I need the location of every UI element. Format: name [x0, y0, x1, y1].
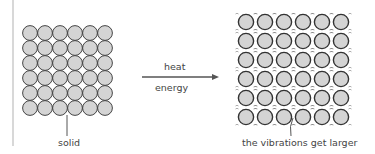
particle	[257, 52, 272, 67]
vibration-mark	[236, 48, 239, 49]
particle	[333, 14, 348, 29]
particle	[53, 86, 68, 101]
particle	[333, 109, 348, 124]
particle	[83, 41, 98, 56]
particle	[98, 101, 113, 116]
particle	[83, 71, 98, 86]
vibration-mark	[349, 70, 352, 71]
particle	[238, 71, 253, 86]
particle	[38, 56, 53, 71]
particle	[295, 33, 310, 48]
particle	[98, 71, 113, 86]
particle	[83, 101, 98, 116]
particle	[68, 41, 83, 56]
particle	[295, 109, 310, 124]
particle	[333, 71, 348, 86]
vibration-mark	[349, 29, 352, 30]
particle	[38, 26, 53, 41]
particle	[314, 52, 329, 67]
vibration-mark	[236, 51, 239, 52]
solid-particle-grid	[23, 26, 113, 116]
particle	[314, 33, 329, 48]
energy-label: energy	[155, 82, 188, 93]
heat-arrow	[142, 74, 219, 80]
vibration-mark	[236, 89, 239, 90]
solid-label: solid	[58, 137, 80, 148]
particle	[314, 90, 329, 105]
particle	[238, 33, 253, 48]
particle	[68, 26, 83, 41]
vibration-mark	[236, 32, 239, 33]
particle	[68, 56, 83, 71]
particle	[333, 52, 348, 67]
particle	[333, 90, 348, 105]
particle	[276, 14, 291, 29]
particle	[53, 41, 68, 56]
vibration-mark	[236, 124, 239, 125]
vibration-mark	[236, 70, 239, 71]
particle	[68, 86, 83, 101]
particle	[98, 56, 113, 71]
particle	[333, 33, 348, 48]
particle	[238, 109, 253, 124]
particle	[38, 101, 53, 116]
particle	[257, 109, 272, 124]
particle	[23, 41, 38, 56]
particle	[276, 33, 291, 48]
particle	[276, 71, 291, 86]
vibrating-particle-grid	[236, 13, 352, 125]
particle	[23, 26, 38, 41]
particle	[314, 71, 329, 86]
diagram-canvas	[0, 0, 375, 154]
particle	[68, 101, 83, 116]
particle	[276, 90, 291, 105]
particle	[257, 33, 272, 48]
particle	[276, 52, 291, 67]
vibration-mark	[349, 48, 352, 49]
particle	[23, 101, 38, 116]
particle	[23, 71, 38, 86]
vibration-mark	[236, 13, 239, 14]
particle	[98, 86, 113, 101]
particle	[257, 14, 272, 29]
vibration-mark	[349, 67, 352, 68]
particle	[295, 90, 310, 105]
particle	[314, 109, 329, 124]
particle	[38, 41, 53, 56]
particle	[23, 86, 38, 101]
vibration-mark	[349, 32, 352, 33]
particle	[53, 71, 68, 86]
particle	[53, 56, 68, 71]
particle	[238, 52, 253, 67]
particle	[314, 14, 329, 29]
particle	[295, 71, 310, 86]
vibration-mark	[349, 51, 352, 52]
particle	[98, 41, 113, 56]
particle	[295, 14, 310, 29]
particle	[23, 56, 38, 71]
vibrations-label: the vibrations get larger	[242, 137, 357, 148]
vibration-mark	[349, 108, 352, 109]
vibration-mark	[349, 89, 352, 90]
particle	[38, 71, 53, 86]
vibration-mark	[349, 86, 352, 87]
particle	[83, 86, 98, 101]
vibration-mark	[236, 108, 239, 109]
particle	[98, 26, 113, 41]
particle	[38, 86, 53, 101]
vibration-mark	[236, 86, 239, 87]
vibration-mark	[236, 29, 239, 30]
particle	[295, 52, 310, 67]
particle	[53, 101, 68, 116]
particle	[83, 26, 98, 41]
vibration-mark	[349, 13, 352, 14]
vibration-mark	[349, 105, 352, 106]
particle	[238, 14, 253, 29]
particle	[68, 71, 83, 86]
vibration-mark	[349, 124, 352, 125]
vibration-mark	[236, 105, 239, 106]
particle	[257, 71, 272, 86]
particle	[83, 56, 98, 71]
particle	[238, 90, 253, 105]
particle	[257, 90, 272, 105]
